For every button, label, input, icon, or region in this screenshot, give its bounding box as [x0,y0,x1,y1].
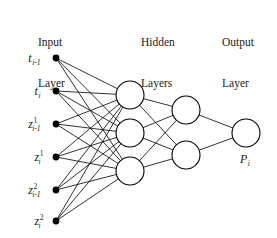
neural-network-diagram: Input Layer Hidden Layers Output Layer t… [0,0,277,238]
output-label-base: P [240,152,247,166]
edge-1-2-to-2-1 [143,159,173,168]
heading-hidden-line1: Hidden [141,36,175,50]
output-node-label: Pi [240,152,249,167]
edge-2-1-to-3-0 [199,138,233,151]
input-label-sub-0: i-1 [32,57,40,66]
input-label-1: ti [35,84,40,99]
edge-0-3-to-1-1 [59,137,117,156]
input-label-sub-1: i [38,90,40,99]
output-label-sub: i [248,159,250,168]
input-label-4: z2i-1 [28,183,40,198]
heading-input-layer: Input Layer [38,9,65,117]
edge-1-1-to-2-1 [142,138,173,150]
node-hidden-1-0 [116,81,144,109]
heading-output-layer: Output Layer [222,9,254,117]
edge-0-0-to-1-0 [59,59,118,89]
heading-output-line1: Output [222,36,254,50]
heading-hidden-layers: Hidden Layers [141,9,175,117]
input-label-0: ti-1 [28,51,40,66]
node-hidden-1-2 [116,157,144,185]
input-label-sub-2: i-1 [32,123,40,132]
node-input-0-2 [53,121,60,128]
input-label-sub-5: i [38,220,40,229]
edge-1-2-to-2-0 [139,120,177,161]
edge-0-5-to-1-2 [58,179,118,220]
edge-0-5-to-1-0 [57,107,123,219]
input-label-sub-3: i [38,156,40,165]
node-output-3-0 [232,119,260,147]
heading-input-line1: Input [38,36,65,50]
input-label-base-0: t [28,51,31,65]
input-label-5: z2i [34,214,40,229]
input-label-sub-4: i-1 [32,189,40,198]
input-label-base-1: t [35,84,38,98]
node-input-0-4 [53,187,60,194]
node-input-0-3 [53,154,60,161]
node-hidden-2-0 [172,96,200,124]
heading-hidden-line2: Layers [141,77,175,91]
edge-0-1-to-1-1 [58,92,118,126]
edge-1-1-to-2-0 [142,115,173,128]
node-input-0-5 [53,218,60,225]
input-label-2: z1i-1 [28,117,40,132]
edge-0-1-to-1-0 [59,91,116,94]
heading-output-line2: Layer [222,77,254,91]
heading-input-line2: Layer [38,77,65,91]
node-hidden-2-1 [172,141,200,169]
edge-0-4-to-1-2 [59,174,117,189]
input-label-3: z1i [34,150,40,165]
node-hidden-1-1 [116,119,144,147]
